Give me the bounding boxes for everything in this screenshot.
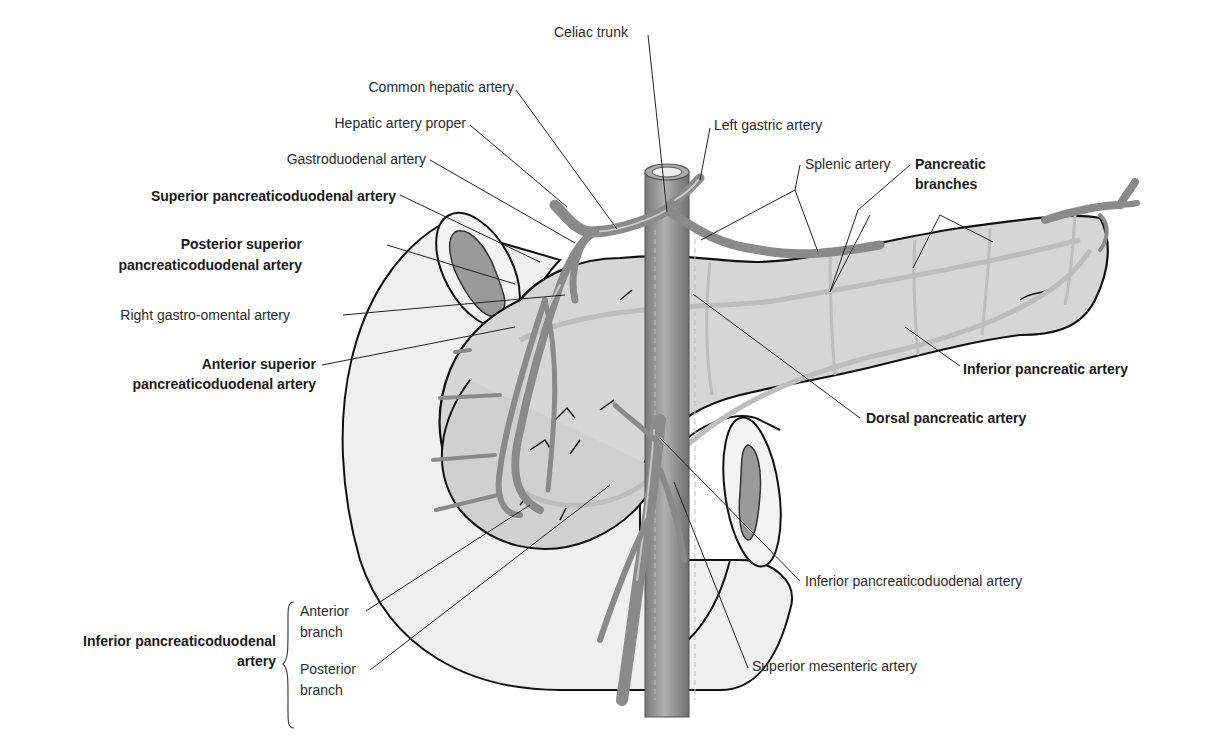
label-pancreatic-branches-line1: Pancreatic	[915, 154, 986, 174]
label-inferior-pancreaticoduodenal-artery: Inferior pancreaticoduodenal artery	[805, 571, 1022, 591]
label-celiac-trunk: Celiac trunk	[554, 22, 628, 42]
label-inferior-pd-group-line2: artery	[10, 651, 276, 671]
label-anterior-branch-line1: Anterior	[300, 601, 349, 621]
label-anterior-superior-line1: Anterior superior	[80, 354, 316, 374]
label-right-gastro-omental-artery: Right gastro-omental artery	[100, 305, 290, 325]
label-superior-mesenteric-artery: Superior mesenteric artery	[752, 656, 917, 676]
label-inferior-pancreatic-artery: Inferior pancreatic artery	[963, 359, 1128, 379]
label-posterior-superior-line1: Posterior superior	[100, 234, 302, 254]
label-splenic-artery: Splenic artery	[805, 154, 891, 174]
label-hepatic-artery-proper: Hepatic artery proper	[280, 113, 466, 133]
label-inferior-pd-group-line1: Inferior pancreaticoduodenal	[10, 631, 276, 651]
label-posterior-branch-line1: Posterior	[300, 659, 356, 679]
label-pancreatic-branches-line2: branches	[915, 174, 977, 194]
label-left-gastric-artery: Left gastric artery	[714, 115, 822, 135]
label-anterior-branch-line2: branch	[300, 622, 343, 642]
brace-icon	[282, 600, 296, 730]
label-common-hepatic-artery: Common hepatic artery	[337, 77, 514, 97]
label-dorsal-pancreatic-artery: Dorsal pancreatic artery	[866, 408, 1026, 428]
label-posterior-superior-line2: pancreaticoduodenal artery	[100, 255, 302, 275]
pancreas-arterial-supply-diagram: Celiac trunk Common hepatic artery Left …	[0, 0, 1212, 738]
label-superior-pancreaticoduodenal-artery: Superior pancreaticoduodenal artery	[90, 186, 396, 206]
label-posterior-branch-line2: branch	[300, 680, 343, 700]
label-gastroduodenal-artery: Gastroduodenal artery	[240, 149, 426, 169]
label-anterior-superior-line2: pancreaticoduodenal artery	[80, 374, 316, 394]
